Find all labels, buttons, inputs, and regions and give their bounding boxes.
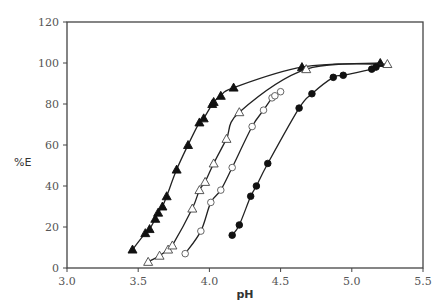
filled-triangle-marker xyxy=(145,225,154,233)
open-circle-marker xyxy=(208,199,215,206)
x-tick-label: 5.0 xyxy=(343,275,361,288)
filled-triangle-marker xyxy=(158,202,167,210)
filled-circle-marker xyxy=(373,64,380,71)
open-triangle-marker xyxy=(201,177,210,185)
filled-circle-marker xyxy=(247,193,254,200)
x-axis-ticks: 3.03.54.04.55.05.5 xyxy=(58,268,432,288)
open-circle-marker xyxy=(229,164,236,171)
filled-circle-marker xyxy=(340,72,347,79)
open-triangle-marker xyxy=(155,251,164,259)
open-circle-marker xyxy=(277,88,284,95)
open-triangle-marker xyxy=(144,257,153,265)
open-circle-marker xyxy=(217,187,224,194)
open-triangle-marker xyxy=(188,204,197,212)
filled-triangle-marker xyxy=(172,165,181,173)
filled-circle-marker xyxy=(330,74,337,81)
x-tick-label: 3.0 xyxy=(58,275,76,288)
y-tick-label: 0 xyxy=(52,262,59,275)
y-tick-label: 120 xyxy=(38,16,59,29)
open-triangle-marker xyxy=(222,134,231,142)
x-tick-label: 4.5 xyxy=(272,275,290,288)
filled-circle-marker xyxy=(236,222,243,229)
open-triangle-marker xyxy=(195,186,204,194)
chart: 020406080100120 3.03.54.04.55.05.5 %E pH xyxy=(0,0,447,308)
x-tick-label: 5.5 xyxy=(414,275,432,288)
open-triangle-marker xyxy=(209,159,218,167)
filled-triangle-marker xyxy=(199,114,208,122)
filled-triangle-marker xyxy=(162,192,171,200)
filled-circle-marker xyxy=(264,160,271,167)
open-triangle-marker xyxy=(168,241,177,249)
filled-triangle-marker xyxy=(184,141,193,149)
open-circle-marker xyxy=(198,228,205,235)
y-tick-label: 60 xyxy=(45,139,59,152)
x-tick-label: 3.5 xyxy=(129,275,147,288)
data-series xyxy=(128,59,392,266)
x-axis-label: pH xyxy=(236,288,253,301)
open-circle-marker xyxy=(272,93,279,100)
filled-circle-marker xyxy=(253,183,260,190)
open-circle-marker xyxy=(182,250,189,257)
y-tick-label: 40 xyxy=(45,180,59,193)
open-circle-marker xyxy=(249,123,256,130)
y-axis-label: %E xyxy=(14,156,31,169)
series-line xyxy=(133,63,381,250)
x-tick-label: 4.0 xyxy=(201,275,219,288)
series-line xyxy=(232,67,376,235)
y-tick-label: 80 xyxy=(45,98,59,111)
open-circle-marker xyxy=(260,107,267,114)
filled-circle-marker xyxy=(229,232,236,239)
plot-frame xyxy=(67,22,423,268)
y-axis-ticks: 020406080100120 xyxy=(38,16,67,275)
y-tick-label: 100 xyxy=(38,57,59,70)
filled-circle-marker xyxy=(309,90,316,97)
filled-circle-marker xyxy=(296,105,303,112)
y-tick-label: 20 xyxy=(45,221,59,234)
series-filled-circle xyxy=(229,64,379,239)
series-filled-triangle xyxy=(128,59,385,254)
